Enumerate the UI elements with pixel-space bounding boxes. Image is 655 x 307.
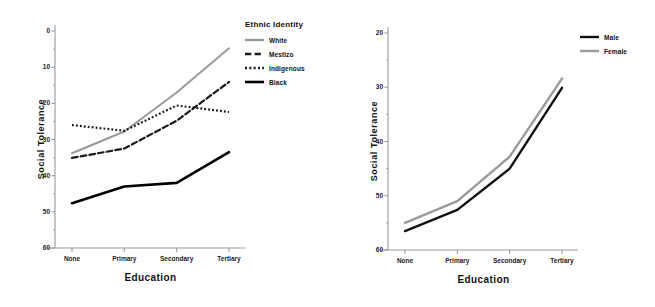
x-tick-label: Tertiary [199,255,259,262]
y-tick-label: 20 [362,29,383,36]
x-tick-label: Secondary [147,255,207,262]
legend-label: Black [269,79,287,86]
y-tick-label: 50 [362,192,383,199]
figure-container: Social Tolerance Education 6050403020100… [0,0,655,307]
y-tick-label: 50 [29,208,50,215]
y-tick-label: 30 [362,83,383,90]
series-line-indigenous [72,106,229,131]
series-line-white [72,48,229,153]
x-tick-label: Primary [94,255,154,262]
legend-gender: MaleFemale [580,33,627,61]
y-tick-label: 40 [29,172,50,179]
legend-label: White [269,37,287,44]
series-line-mestizo [72,82,229,158]
legend-swatch-indigenous-icon [245,64,264,72]
x-tick-label: None [42,255,102,262]
series-line-male [405,88,562,231]
right-x-axis-title: Education [434,274,534,285]
y-tick-label: 20 [29,99,50,106]
x-tick-label: Tertiary [532,257,592,264]
legend-title-ethnic-identity: Ethnic Identity [245,20,305,29]
legend-swatch-black-icon [245,78,264,86]
chart-panel-gender: Social Tolerance Education 6050403020 No… [330,0,655,307]
series-line-female [405,79,562,223]
legend-ethnic-identity: Ethnic Identity WhiteMestizoIndigenousBl… [245,20,305,92]
x-tick-label: None [375,257,435,264]
legend-item-male[interactable]: Male [580,33,627,41]
legend-label: Mestizo [269,51,294,58]
left-x-axis-title: Education [101,272,201,283]
legend-swatch-white-icon [245,36,264,44]
y-tick-label: 0 [29,27,50,34]
y-tick-label: 60 [29,244,50,251]
x-tick-label: Secondary [480,257,540,264]
legend-item-white[interactable]: White [245,36,305,44]
series-line-black [72,152,229,203]
legend-label: Male [604,34,619,41]
legend-item-mestizo[interactable]: Mestizo [245,50,305,58]
legend-item-indigenous[interactable]: Indigenous [245,64,305,72]
legend-swatch-female-icon [580,47,599,55]
y-tick-label: 30 [29,136,50,143]
legend-items-gender: MaleFemale [580,33,627,55]
legend-item-black[interactable]: Black [245,78,305,86]
y-tick-label: 40 [362,138,383,145]
x-tick-label: Primary [427,257,487,264]
legend-swatch-mestizo-icon [245,50,264,58]
legend-item-female[interactable]: Female [580,47,627,55]
legend-items-ethnic-identity: WhiteMestizoIndigenousBlack [245,36,305,86]
y-tick-label: 60 [362,246,383,253]
y-tick-label: 10 [29,63,50,70]
legend-label: Indigenous [269,65,305,72]
legend-swatch-male-icon [580,33,599,41]
chart-panel-ethnic-identity: Social Tolerance Education 6050403020100… [0,0,330,307]
legend-label: Female [604,48,627,55]
